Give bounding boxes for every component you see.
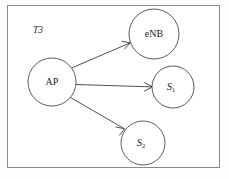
node-ap-label: AP: [46, 76, 59, 87]
network-diagram: AP eNB S1 S2 T3: [0, 0, 229, 179]
edge-ap-to-s2[interactable]: [71, 98, 125, 136]
node-s2-label-subscript: 2: [142, 142, 145, 149]
figure-title-label: T3: [33, 25, 43, 35]
node-s1-label-subscript: 1: [172, 86, 175, 93]
edge-ap-to-enb-line: [72, 43, 130, 68]
node-s2[interactable]: S2: [121, 121, 165, 165]
edge-ap-to-enb-arrowhead: [122, 41, 130, 49]
node-s1[interactable]: S1: [152, 66, 194, 108]
edge-ap-to-enb[interactable]: [72, 41, 131, 68]
node-enb[interactable]: eNB: [129, 9, 179, 59]
node-group: AP eNB S1 S2: [28, 9, 194, 165]
edge-ap-to-s1-line: [76, 85, 152, 87]
figure-root: AP eNB S1 S2 T3: [0, 0, 229, 179]
edge-ap-to-s1[interactable]: [76, 83, 153, 92]
node-ap[interactable]: AP: [28, 58, 76, 106]
edge-ap-to-s2-line: [71, 98, 125, 129]
node-enb-label: eNB: [145, 28, 164, 39]
